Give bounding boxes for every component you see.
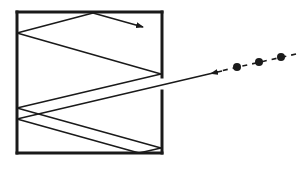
ray-segment [17,13,93,33]
ray-segment [17,33,161,74]
ray-segment-exit-arrow [93,13,143,27]
ray-segment-entry [17,74,211,120]
reflection-cavity-diagram [0,0,305,169]
particle-dot [277,53,285,61]
particle-dot [255,58,263,66]
incoming-particles [233,53,285,71]
reflected-ray-path [17,13,211,153]
cavity-box [17,12,162,153]
particle-dot [233,63,241,71]
ray-segment [17,108,161,148]
